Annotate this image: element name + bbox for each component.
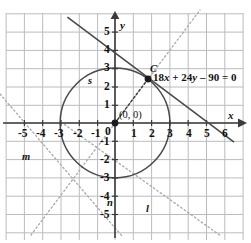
- figure-canvas: -5 -4 -3 -2 -1 1 2 3 4 5 6 5 4 3 2 1 -1 …: [0, 0, 251, 243]
- point-c: [145, 76, 152, 83]
- y-tick--5: -5: [100, 209, 110, 221]
- y-axis-label: y: [120, 20, 125, 31]
- x-axis-arrow: [238, 119, 247, 128]
- y-tick-4: 4: [104, 44, 110, 56]
- line-l-path: [61, 122, 221, 236]
- line-label-n: n: [107, 198, 113, 209]
- circle-label-s: s: [88, 76, 92, 87]
- tangent-equation-label: 18x + 24y – 90 = 0: [153, 72, 236, 83]
- geometry-plot: [0, 0, 251, 243]
- origin-tick-label: 0: [105, 126, 111, 138]
- y-tick-2: 2: [104, 81, 110, 93]
- eq-op-minus: –: [197, 71, 208, 83]
- y-tick--1: -1: [100, 136, 110, 148]
- y-axis-arrow: [111, 11, 120, 19]
- y-tick-3: 3: [104, 62, 110, 74]
- x-axis-label: x: [228, 110, 234, 121]
- x-tick--4: -4: [36, 128, 46, 140]
- x-tick-5: 5: [204, 128, 210, 140]
- y-tick--3: -3: [100, 172, 110, 184]
- x-tick--5: -5: [18, 128, 28, 140]
- eq-coef-b: 24: [181, 71, 192, 83]
- x-tick--3: -3: [54, 128, 64, 140]
- eq-equals: = 0: [219, 71, 236, 83]
- eq-coef-a: 18: [153, 71, 164, 83]
- origin-point-label: (0, 0): [119, 110, 142, 121]
- line-label-l: l: [146, 204, 149, 215]
- x-tick--2: -2: [73, 128, 83, 140]
- y-tick-1: 1: [104, 99, 110, 111]
- x-tick-1: 1: [131, 128, 137, 140]
- y-tick--2: -2: [100, 154, 110, 166]
- y-tick-5: 5: [104, 26, 110, 38]
- x-tick-4: 4: [186, 128, 192, 140]
- x-tick-3: 3: [167, 128, 173, 140]
- x-tick-6: 6: [222, 128, 228, 140]
- line-label-m: m: [22, 152, 30, 163]
- eq-const-c: 90: [208, 71, 219, 83]
- x-tick-2: 2: [149, 128, 155, 140]
- eq-op-plus: +: [170, 71, 182, 83]
- origin-point: [112, 120, 119, 127]
